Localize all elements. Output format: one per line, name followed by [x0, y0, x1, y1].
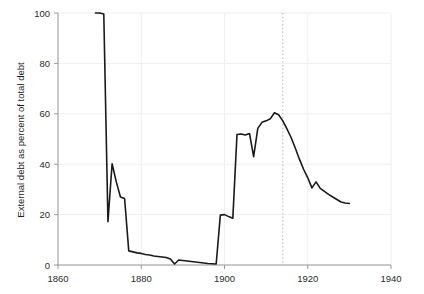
- x-axis-tick-labels: 18601880190019201940: [47, 273, 401, 284]
- y-tick-label-100: 100: [34, 8, 50, 19]
- data-series-line: [95, 13, 349, 264]
- y-axis-tick-labels: 020406080100: [34, 8, 50, 271]
- x-tick-label-1860: 1860: [47, 273, 68, 284]
- y-tick-label-20: 20: [39, 209, 50, 220]
- y-tick-label-40: 40: [39, 159, 50, 170]
- y-tick-label-60: 60: [39, 108, 50, 119]
- y-tick-label-0: 0: [45, 260, 50, 271]
- y-axis-title: External debt as percent of total debt: [15, 62, 26, 218]
- x-tick-label-1880: 1880: [131, 273, 152, 284]
- vertical-gridlines: [58, 13, 391, 265]
- chart-container: External debt as percent of total debt 1…: [0, 0, 424, 294]
- line-chart: External debt as percent of total debt 1…: [0, 0, 424, 294]
- y-axis: [54, 13, 58, 265]
- x-tick-label-1920: 1920: [297, 273, 318, 284]
- x-tick-label-1940: 1940: [380, 273, 401, 284]
- x-tick-label-1900: 1900: [214, 273, 235, 284]
- x-axis: [57, 265, 391, 269]
- y-tick-label-80: 80: [39, 58, 50, 69]
